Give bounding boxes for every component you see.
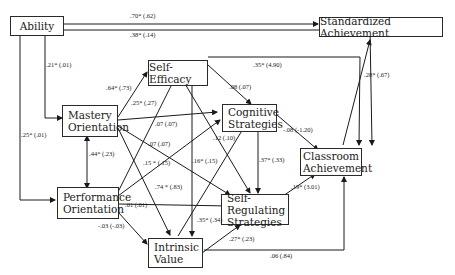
node-self-regulating-strategies: Self-Regulating Strategies: [221, 194, 289, 225]
node-label-line1: Mastery: [68, 109, 117, 121]
node-mastery-orientation: Mastery Orientation: [62, 105, 118, 137]
node-label-line2: Achievement: [303, 162, 361, 174]
node-label: Standardized Achievement: [320, 15, 442, 39]
node-ability: Ability: [10, 16, 64, 36]
path-label-performance-selfefficacy: .07 (.07): [155, 120, 177, 127]
path-label-performance-intrinsic: -.03 (-.03): [98, 222, 125, 229]
path-label-intrinsic-classroom: .06 (.84): [270, 252, 292, 259]
node-label-line2: Value: [154, 253, 202, 265]
path-label-intrinsic-selfregulating-a: .35* (.34): [197, 216, 222, 223]
path-label-ability-performance: .25* (.01): [21, 131, 46, 138]
node-label-line1: Performance: [63, 191, 118, 203]
path-label-intrinsic-selfregulating-b: .27* (.23): [229, 235, 254, 242]
path-label-mastery-performance: .44* (.23): [89, 150, 114, 157]
node-label: Self-Efficacy: [149, 61, 207, 85]
node-label-line2: Orientation: [63, 203, 118, 215]
path-label-ability-mastery: .21* (.01): [46, 61, 71, 68]
path-label-mastery-intrinsic: .74 * (.83): [155, 183, 182, 190]
path-label-mastery-selfregulating: .15 * (.15): [143, 159, 170, 166]
node-label-line1: Intrinsic: [154, 241, 202, 253]
node-label: Ability: [20, 20, 55, 32]
node-cognitive-strategies: Cognitive Strategies: [222, 104, 277, 132]
path-label-selfregulating-classroom: .19* (3.01): [291, 183, 320, 190]
node-label-line2: Strategies: [228, 118, 276, 130]
path-label-ability-standardized: .70* (.62): [130, 12, 155, 19]
node-label-line1: Classroom: [303, 150, 361, 162]
path-label-selfefficacy-classroom: .35* (4.90): [253, 61, 282, 68]
node-label-line1: Self-Regulating: [227, 192, 288, 216]
node-label-line2: Strategies: [227, 216, 288, 228]
path-label-intrinsic-cognitive: .12 (.10): [213, 134, 235, 141]
path-label-classroom-standardized: .28* (.67): [364, 71, 389, 78]
node-classroom-achievement: Classroom Achievement: [300, 148, 362, 176]
node-self-efficacy: Self-Efficacy: [148, 60, 208, 86]
path-label-cognitive-classroom: -.08 (-1.20): [283, 126, 313, 133]
path-label-performance-selfregulating: .01 (.01): [125, 201, 147, 208]
node-label-line1: Cognitive: [228, 106, 276, 118]
path-label-ability-classroom: .38* (.14): [130, 31, 155, 38]
node-intrinsic-value: Intrinsic Value: [148, 238, 203, 268]
node-label-line2: Orientation: [68, 121, 117, 133]
path-label-mastery-cognitive: .25* (.27): [131, 99, 156, 106]
path-label-mastery-selfefficacy: .64* (.73): [106, 84, 131, 91]
path-label-selfefficacy-cognitive: .08 (.07): [229, 83, 251, 90]
path-label-performance-cognitive: .07 (.07): [148, 140, 170, 147]
path-label-selfefficacy-intrinsic: .16* (.15): [192, 157, 217, 164]
node-performance-orientation: Performance Orientation: [57, 187, 119, 219]
path-label-cognitive-selfregulating: .37* (.33): [259, 156, 284, 163]
node-standardized-achievement: Standardized Achievement: [319, 17, 443, 37]
